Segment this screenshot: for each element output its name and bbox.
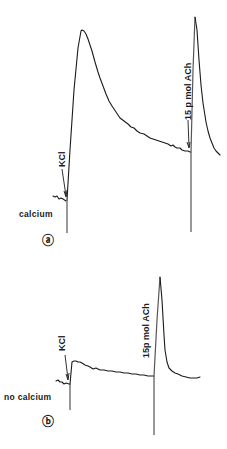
condition-label-a: calcium [19, 209, 53, 219]
trace-b-kcl-response [70, 361, 154, 384]
condition-label-b: no calcium [4, 392, 52, 402]
trace-a-kcl-response [67, 30, 191, 200]
ach-label-b: 15p mol ACh [141, 303, 151, 358]
trace-a-ach-decay [195, 17, 220, 155]
trace-b-baseline [56, 380, 70, 384]
panel-badge-a: ⓐ [42, 233, 54, 248]
panel-b: KCl 15p mol ACh no calcium ⓑ [4, 277, 200, 435]
kcl-arrow-a [62, 169, 67, 197]
trace-b-ach-upstroke [154, 277, 160, 376]
trace-a-baseline [53, 196, 66, 201]
kcl-label-a: KCl [57, 152, 67, 168]
kcl-label-b: KCl [57, 336, 67, 352]
panel-badge-b: ⓑ [42, 414, 54, 429]
figure: KCl 15 p mol ACh calcium ⓐ KCl 15p mol A… [0, 0, 227, 449]
trace-b-ach-decay [160, 277, 200, 378]
kcl-arrow-b [65, 355, 69, 380]
ach-label-a: 15 p mol ACh [183, 63, 193, 120]
panel-a: KCl 15 p mol ACh calcium ⓐ [19, 17, 220, 248]
ach-arrow-a [187, 120, 190, 148]
